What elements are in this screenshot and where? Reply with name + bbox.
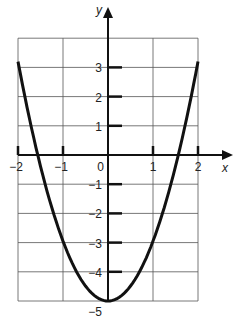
tick-labels: −2−1012321−1−2−3−4−5: [9, 61, 202, 318]
y-tick-label: −5: [88, 305, 102, 318]
y-tick-label: 1: [95, 120, 102, 134]
y-axis-arrow-icon: [103, 7, 113, 18]
y-tick-label: −4: [88, 266, 102, 280]
y-tick-label: −3: [88, 237, 102, 251]
x-tick-label: −2: [9, 160, 23, 174]
x-tick-label: −1: [54, 160, 68, 174]
y-tick-label: −2: [88, 207, 102, 221]
x-axis-arrow-icon: [222, 150, 233, 160]
y-tick-label: 3: [95, 61, 102, 75]
y-tick-label: −1: [88, 178, 102, 192]
y-axis-label: y: [95, 3, 103, 17]
x-axis-label: x: [221, 161, 229, 175]
y-tick-label: 2: [95, 91, 102, 105]
chart: −2−1012321−1−2−3−4−5 y x: [0, 0, 239, 318]
x-tick-label: 2: [195, 160, 202, 174]
x-tick-label: 1: [150, 160, 157, 174]
axes: [18, 14, 226, 300]
origin-label: 0: [97, 160, 104, 174]
